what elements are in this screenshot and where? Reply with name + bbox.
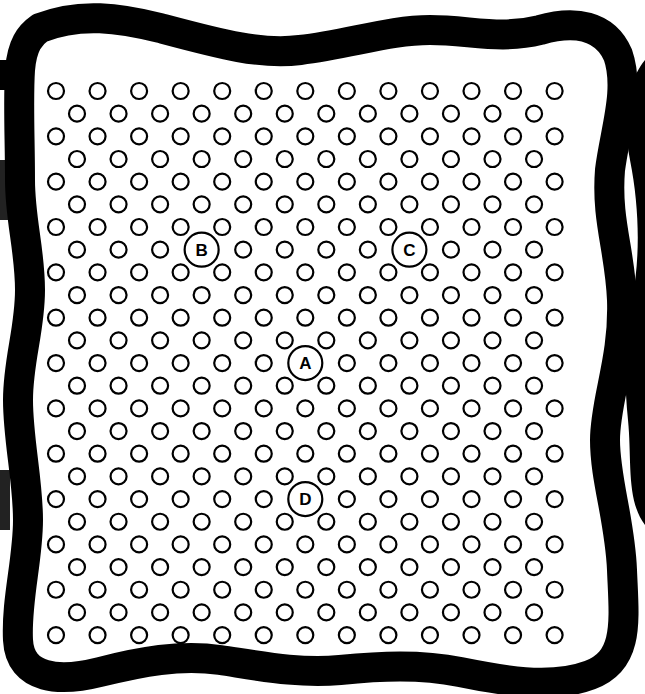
- dot: [90, 536, 106, 552]
- dot: [401, 287, 417, 303]
- dot: [360, 604, 376, 620]
- dot: [464, 491, 480, 507]
- dot: [214, 491, 230, 507]
- dot: [401, 604, 417, 620]
- dot: [173, 83, 189, 99]
- dot: [443, 242, 459, 258]
- dot: [464, 83, 480, 99]
- dot: [152, 559, 168, 575]
- dot: [318, 514, 334, 530]
- dot: [380, 310, 396, 326]
- dot: [256, 582, 272, 598]
- dot: [526, 106, 542, 122]
- dot: [194, 559, 210, 575]
- dot: [214, 264, 230, 280]
- dot: [256, 536, 272, 552]
- dot: [152, 287, 168, 303]
- dot: [256, 446, 272, 462]
- dot: [214, 83, 230, 99]
- dot: [173, 310, 189, 326]
- dot: [90, 491, 106, 507]
- dot: [194, 423, 210, 439]
- dot: [173, 264, 189, 280]
- dot: [422, 310, 438, 326]
- dot: [464, 355, 480, 371]
- dot: [422, 174, 438, 190]
- dot: [277, 423, 293, 439]
- dot: [297, 582, 313, 598]
- dot: [235, 196, 251, 212]
- dot: [339, 536, 355, 552]
- dot: [131, 491, 147, 507]
- dot: [401, 514, 417, 530]
- dot: [485, 559, 501, 575]
- dot: [422, 627, 438, 643]
- dot: [235, 559, 251, 575]
- dot: [401, 332, 417, 348]
- dot: [214, 582, 230, 598]
- dot: [48, 264, 64, 280]
- dot: [173, 400, 189, 416]
- dot: [173, 174, 189, 190]
- dot: [380, 536, 396, 552]
- dot: [152, 378, 168, 394]
- dot: [90, 219, 106, 235]
- dot: [277, 242, 293, 258]
- dot: [173, 355, 189, 371]
- dot: [422, 355, 438, 371]
- dot: [422, 83, 438, 99]
- dot: [464, 174, 480, 190]
- dot: [443, 423, 459, 439]
- dot: [256, 264, 272, 280]
- dot: [69, 559, 85, 575]
- dot: [48, 627, 64, 643]
- dot: [131, 83, 147, 99]
- dot: [401, 559, 417, 575]
- dot: [464, 446, 480, 462]
- dot: [194, 468, 210, 484]
- dot: [152, 514, 168, 530]
- dot: [69, 468, 85, 484]
- dot: [131, 310, 147, 326]
- dot: [256, 174, 272, 190]
- dot: [256, 219, 272, 235]
- dot: [69, 514, 85, 530]
- dot: [547, 536, 563, 552]
- dot: [443, 196, 459, 212]
- dot: [380, 400, 396, 416]
- dot: [235, 423, 251, 439]
- dot: [48, 310, 64, 326]
- point-label: C: [403, 241, 415, 260]
- dot: [339, 627, 355, 643]
- dot: [111, 106, 127, 122]
- dot: [318, 468, 334, 484]
- dot: [422, 219, 438, 235]
- dot: [505, 627, 521, 643]
- dot: [90, 355, 106, 371]
- dot: [526, 332, 542, 348]
- dot: [69, 106, 85, 122]
- labeled-points: BCAD: [185, 233, 427, 516]
- dot: [339, 219, 355, 235]
- dot: [194, 514, 210, 530]
- dot: [235, 514, 251, 530]
- dot: [297, 174, 313, 190]
- dot: [297, 446, 313, 462]
- dot: [277, 151, 293, 167]
- dot: [485, 106, 501, 122]
- dot: [422, 264, 438, 280]
- dot: [131, 128, 147, 144]
- dot: [443, 106, 459, 122]
- dot: [443, 559, 459, 575]
- dot: [360, 423, 376, 439]
- dot: [256, 355, 272, 371]
- dot: [380, 355, 396, 371]
- dot: [48, 446, 64, 462]
- dot: [297, 128, 313, 144]
- dot: [277, 468, 293, 484]
- dot: [90, 400, 106, 416]
- dot: [443, 468, 459, 484]
- dot: [443, 378, 459, 394]
- dot: [505, 582, 521, 598]
- dot: [422, 582, 438, 598]
